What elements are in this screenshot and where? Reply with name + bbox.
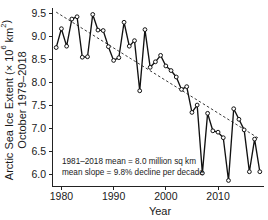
data-point-marker (242, 128, 246, 132)
chart-annotations: 1981–2018 mean = 8.0 million sq kmmean s… (62, 157, 204, 177)
data-series-line (56, 14, 260, 180)
data-point-marker (112, 59, 116, 63)
y-axis: 6.06.57.07.58.08.59.09.5 (31, 7, 52, 186)
data-point-marker (237, 117, 241, 121)
y-tick-label: 8.5 (31, 53, 46, 65)
y-tick-label: 6.5 (31, 145, 46, 157)
data-point-marker (122, 20, 126, 24)
data-point-marker (190, 111, 194, 115)
data-point-marker (80, 55, 84, 59)
y-tick-label: 7.0 (31, 122, 46, 134)
data-point-marker (258, 170, 262, 174)
data-point-marker (148, 65, 152, 69)
data-point-marker (138, 89, 142, 93)
chart-container: 6.06.57.07.58.08.59.09.5 198019902000201… (0, 0, 268, 220)
y-tick-label: 6.0 (31, 168, 46, 180)
y-tick-label: 9.5 (31, 7, 46, 19)
x-tick-label: 1990 (102, 190, 126, 202)
data-point-marker (60, 27, 64, 31)
annotation-line-2: mean slope = 9.8% decline per decade (62, 168, 204, 177)
x-axis-title: Year (149, 205, 172, 217)
x-tick-label: 1980 (50, 190, 74, 202)
data-point-marker (106, 45, 110, 49)
data-point-marker (117, 56, 121, 60)
data-point-marker (127, 44, 131, 48)
data-point-marker (247, 170, 251, 174)
x-tick-label: 2000 (154, 190, 178, 202)
x-tick-label: 2010 (206, 190, 230, 202)
data-point-marker (211, 129, 215, 133)
data-point-marker (206, 111, 210, 115)
data-point-marker (180, 88, 184, 92)
data-point-marker (96, 28, 100, 32)
data-point-marker (75, 15, 79, 19)
data-point-marker (221, 136, 225, 140)
data-point-marker (227, 179, 231, 183)
data-point-marker (253, 137, 257, 141)
data-point-marker (164, 64, 168, 68)
data-point-marker (86, 55, 90, 59)
y-axis-title-line2: October 1979–2018 (16, 51, 28, 148)
data-point-marker (185, 85, 189, 89)
data-point-marker (153, 60, 157, 64)
data-point-marker (65, 44, 69, 48)
arctic-sea-ice-line-chart: 6.06.57.07.58.08.59.09.5 198019902000201… (0, 0, 268, 220)
data-point-marker (216, 130, 220, 134)
data-point-marker (101, 29, 105, 33)
data-point-marker (169, 69, 173, 73)
data-point-marker (232, 107, 236, 111)
y-tick-label: 7.5 (31, 99, 46, 111)
y-axis-title-line1: Arctic Sea Ice Extent (× 106 km2) (0, 20, 15, 180)
data-point-marker (174, 75, 178, 79)
y-tick-label: 9.0 (31, 30, 46, 42)
data-point-marker (91, 13, 95, 17)
data-point-marker (195, 103, 199, 107)
trend-line (56, 12, 260, 139)
data-point-marker (143, 28, 147, 32)
annotation-line-1: 1981–2018 mean = 8.0 million sq km (62, 157, 196, 166)
data-point-marker (133, 39, 137, 43)
data-point-marker (54, 46, 58, 50)
data-point-marker (70, 17, 74, 21)
y-tick-label: 8.0 (31, 76, 46, 88)
data-point-marker (159, 53, 163, 57)
x-axis: 1980199020002010 (50, 186, 264, 202)
